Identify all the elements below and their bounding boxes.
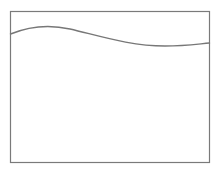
frame-rectangle (11, 12, 210, 163)
diagram-canvas (0, 0, 219, 169)
wave-curve (11, 26, 210, 46)
